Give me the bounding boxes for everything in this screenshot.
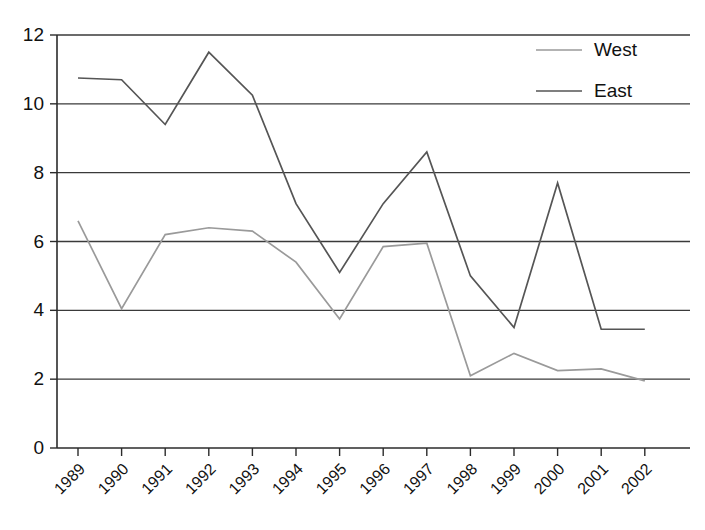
x-tick-label: 1992 [182,460,219,497]
line-chart: 024681012 198919901991199219931994199519… [0,0,705,530]
x-tick-label: 1995 [313,460,350,497]
y-axis-labels-group: 024681012 [23,24,45,458]
y-tick-label: 6 [33,231,44,252]
y-tick-label: 10 [23,93,44,114]
x-tick-label: 1991 [138,460,175,497]
x-tick-label: 1993 [225,460,262,497]
x-tick-label: 1996 [356,460,393,497]
x-tick-label: 1998 [443,460,480,497]
x-axis-ticks-group [78,448,645,456]
x-tick-label: 2002 [618,460,655,497]
legend-label-east: East [594,80,633,101]
series-lines-group [78,52,645,381]
y-tick-label: 0 [33,437,44,458]
legend-label-west: West [594,39,638,60]
x-axis-labels-group: 1989199019911992199319941995199619971998… [51,460,655,497]
x-tick-label: 1999 [487,460,524,497]
y-tick-label: 4 [33,299,44,320]
x-tick-label: 1990 [95,460,132,497]
x-tick-label: 1989 [51,460,88,497]
chart-legend: WestEast [536,39,638,101]
x-tick-label: 2000 [531,460,568,497]
chart-canvas: 024681012 198919901991199219931994199519… [0,0,705,530]
x-tick-label: 2001 [574,460,611,497]
y-tick-label: 12 [23,24,44,45]
series-line-east [78,52,645,329]
y-tick-label: 2 [33,368,44,389]
series-line-west [78,221,645,381]
x-tick-label: 1994 [269,460,306,497]
x-tick-label: 1997 [400,460,437,497]
y-axis-ticks-group [50,35,57,448]
y-tick-label: 8 [33,162,44,183]
